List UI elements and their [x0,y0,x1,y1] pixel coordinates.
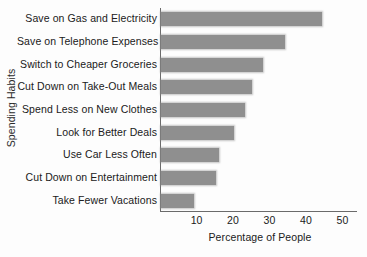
bar [161,80,252,94]
bar-fill [161,194,194,208]
bar [161,35,285,49]
x-tick-label: 40 [291,214,321,226]
category-label: Save on Telephone Expenses [17,35,157,47]
bar [161,12,322,26]
x-tick-label: 10 [181,214,211,226]
bar-chart-figure: Spending Habits Save on Gas and Electric… [0,0,367,257]
x-tick-label: 20 [218,214,248,226]
bar-fill [161,80,252,94]
bar-fill [161,171,216,185]
bar-fill [161,148,219,162]
bar [161,148,219,162]
x-axis-title: Percentage of People [160,231,360,243]
y-axis-category-labels: Save on Gas and ElectricitySave on Telep… [14,8,157,212]
bar-fill [161,35,285,49]
plot-area [160,8,360,212]
x-axis-line [160,211,357,212]
category-label: Spend Less on New Clothes [17,103,157,115]
category-label: Use Car Less Often [17,148,157,160]
bar-fill [161,126,234,140]
category-label: Cut Down on Take-Out Meals [17,80,157,92]
bar-fill [161,12,322,26]
x-tick-label: 50 [327,214,357,226]
bar [161,58,263,72]
category-label: Cut Down on Entertainment [17,171,157,183]
x-tick-label: 30 [254,214,284,226]
category-label: Look for Better Deals [17,126,157,138]
bar [161,103,245,117]
bar [161,194,194,208]
bar-fill [161,103,245,117]
category-label: Save on Gas and Electricity [17,12,157,24]
bar [161,171,216,185]
bar-fill [161,58,263,72]
category-label: Take Fewer Vacations [17,194,157,206]
category-label: Switch to Cheaper Groceries [17,58,157,70]
x-axis-tick-labels: 1020304050 [160,214,360,230]
bar [161,126,234,140]
